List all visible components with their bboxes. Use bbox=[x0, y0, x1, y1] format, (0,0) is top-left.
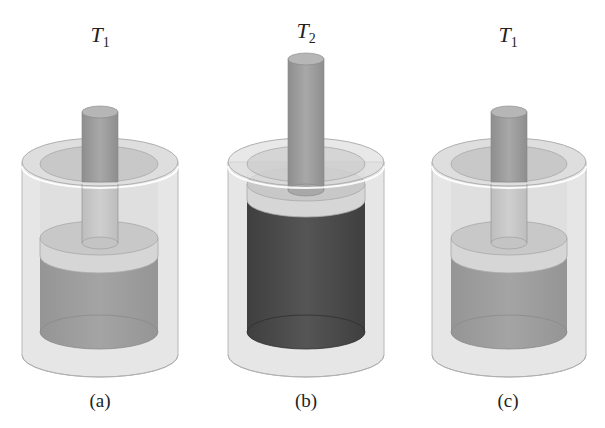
temperature-label-b: T2 bbox=[296, 18, 315, 47]
panel-label-b: (b) bbox=[295, 390, 317, 412]
rod-base bbox=[82, 237, 118, 249]
rod bbox=[288, 59, 324, 190]
cylinder-a bbox=[22, 106, 178, 377]
piston-cylinder-diagram bbox=[0, 0, 605, 428]
rod-upper bbox=[82, 112, 118, 182]
rod-top bbox=[82, 106, 118, 118]
temperature-symbol: T bbox=[498, 22, 510, 47]
cylinder-b bbox=[228, 53, 384, 377]
temperature-label-a: T1 bbox=[90, 22, 109, 51]
gas-region bbox=[247, 200, 365, 349]
rod-base bbox=[288, 184, 324, 196]
rod-top bbox=[288, 53, 324, 65]
temperature-subscript: 1 bbox=[511, 35, 518, 50]
rod-base bbox=[491, 237, 527, 249]
temperature-label-c: T1 bbox=[498, 22, 517, 51]
temperature-subscript: 2 bbox=[309, 31, 316, 46]
panel-label-c: (c) bbox=[497, 390, 518, 412]
rod-upper bbox=[491, 112, 527, 182]
temperature-symbol: T bbox=[90, 22, 102, 47]
panel-label-a: (a) bbox=[89, 390, 110, 412]
temperature-symbol: T bbox=[296, 18, 308, 43]
temperature-subscript: 1 bbox=[103, 35, 110, 50]
cylinder-c bbox=[432, 106, 586, 377]
rod-top bbox=[491, 106, 527, 118]
